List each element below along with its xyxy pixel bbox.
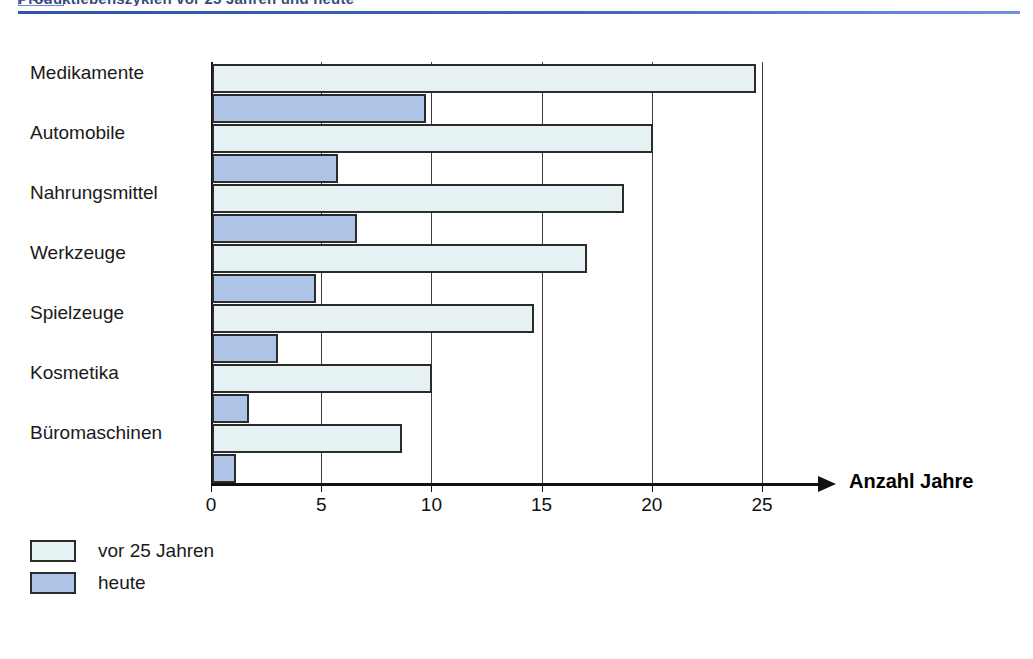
category-label: Kosmetika — [30, 362, 206, 384]
legend-item: heute — [30, 567, 350, 599]
category-label: Medikamente — [30, 62, 206, 84]
gridline-25 — [762, 62, 763, 483]
x-axis-arrow-icon — [818, 476, 836, 492]
legend-item: vor 25 Jahren — [30, 535, 350, 567]
bar-new — [212, 274, 316, 303]
tick-label-5: 5 — [316, 494, 327, 516]
bar-new — [212, 454, 236, 483]
category-label: Spielzeuge — [30, 302, 206, 324]
figure-title: Produktlebenszyklen vor 25 Jahren und he… — [18, 0, 738, 6]
bar-new — [212, 94, 426, 123]
category-label: Nahrungsmittel — [30, 182, 206, 204]
bar-chart: 0510152025 Anzahl Jahre MedikamenteAutom… — [0, 30, 1033, 510]
bar-new — [212, 394, 249, 423]
legend-swatch-new — [30, 572, 76, 594]
x-axis-line — [211, 483, 824, 486]
tick-label-0: 0 — [206, 494, 217, 516]
tick-label-25: 25 — [751, 494, 772, 516]
bar-old — [212, 64, 756, 93]
bar-old — [212, 244, 587, 273]
header-divider — [18, 11, 1020, 14]
x-axis-title: Anzahl Jahre — [849, 470, 973, 493]
legend-label: heute — [98, 572, 146, 594]
category-label: Automobile — [30, 122, 206, 144]
bar-new — [212, 154, 338, 183]
legend-swatch-old — [30, 540, 76, 562]
legend-label: vor 25 Jahren — [98, 540, 214, 562]
bar-old — [212, 184, 624, 213]
category-label: Werkzeuge — [30, 242, 206, 264]
bar-new — [212, 334, 278, 363]
bar-old — [212, 304, 534, 333]
bar-old — [212, 124, 653, 153]
category-label: Büromaschinen — [30, 422, 206, 444]
tick-label-15: 15 — [531, 494, 552, 516]
tick-label-10: 10 — [421, 494, 442, 516]
tick-label-20: 20 — [641, 494, 662, 516]
chart-legend: vor 25 Jahrenheute — [30, 535, 350, 599]
bar-old — [212, 364, 432, 393]
category-labels: MedikamenteAutomobileNahrungsmittelWerkz… — [30, 30, 206, 510]
bar-old — [212, 424, 402, 453]
bar-new — [212, 214, 357, 243]
